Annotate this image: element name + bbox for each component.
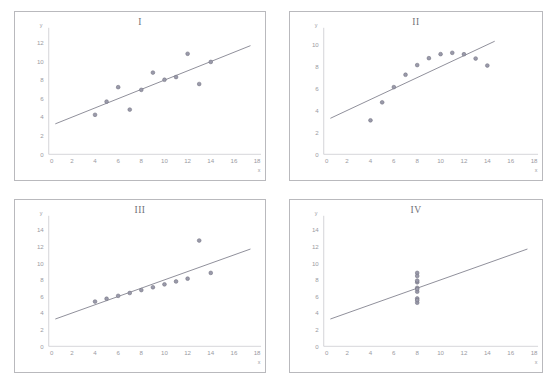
svg-text:10: 10: [37, 58, 44, 65]
svg-text:0: 0: [50, 349, 54, 356]
svg-text:x: x: [535, 359, 538, 365]
svg-text:12: 12: [461, 349, 468, 356]
svg-text:18: 18: [254, 349, 261, 356]
svg-text:x: x: [258, 359, 261, 365]
svg-text:16: 16: [230, 157, 237, 164]
svg-text:10: 10: [161, 349, 168, 356]
svg-text:8: 8: [40, 76, 44, 83]
svg-text:16: 16: [507, 349, 514, 356]
svg-text:10: 10: [437, 157, 444, 164]
svg-text:4: 4: [369, 349, 373, 356]
svg-text:12: 12: [461, 157, 468, 164]
panel-III: III 02468101214246810121416180yx: [0, 193, 278, 387]
svg-text:10: 10: [312, 41, 319, 48]
svg-text:10: 10: [312, 260, 319, 267]
panel-III-plot: 02468101214246810121416180yx: [15, 200, 265, 372]
svg-text:y: y: [315, 210, 318, 216]
svg-text:12: 12: [37, 243, 44, 250]
svg-text:4: 4: [93, 157, 97, 164]
svg-text:x: x: [535, 167, 538, 173]
panel-IV-plot: 02468101214246810121416180yx: [290, 200, 542, 372]
svg-text:2: 2: [70, 157, 74, 164]
svg-text:10: 10: [437, 349, 444, 356]
svg-text:2: 2: [315, 129, 319, 136]
svg-text:0: 0: [325, 349, 329, 356]
svg-text:8: 8: [140, 157, 144, 164]
svg-text:2: 2: [40, 326, 44, 333]
svg-text:4: 4: [315, 309, 319, 316]
svg-text:8: 8: [315, 276, 319, 283]
svg-text:18: 18: [531, 349, 538, 356]
panel-IV-frame: IV 02468101214246810121416180yx: [289, 199, 543, 373]
svg-text:14: 14: [312, 226, 319, 233]
svg-text:y: y: [40, 210, 43, 216]
svg-text:6: 6: [116, 349, 120, 356]
anscombe-quartet-figure: I 024681012246810121416180yx II 02468102…: [0, 0, 556, 387]
panel-I: I 024681012246810121416180yx: [0, 0, 278, 193]
svg-text:4: 4: [369, 157, 373, 164]
svg-text:12: 12: [37, 39, 44, 46]
svg-text:6: 6: [315, 293, 319, 300]
svg-text:x: x: [258, 167, 261, 173]
svg-text:10: 10: [37, 260, 44, 267]
svg-text:4: 4: [40, 309, 44, 316]
svg-text:y: y: [315, 22, 318, 28]
panel-II-frame: II 0246810246810121416180yx: [289, 11, 543, 181]
svg-text:8: 8: [415, 157, 419, 164]
panel-II: II 0246810246810121416180yx: [278, 0, 556, 193]
svg-text:8: 8: [40, 276, 44, 283]
svg-text:2: 2: [40, 132, 44, 139]
svg-text:6: 6: [392, 349, 396, 356]
svg-text:0: 0: [40, 343, 44, 350]
svg-text:2: 2: [345, 157, 349, 164]
svg-text:6: 6: [116, 157, 120, 164]
svg-text:10: 10: [161, 157, 168, 164]
svg-text:12: 12: [184, 157, 191, 164]
svg-text:0: 0: [325, 157, 329, 164]
svg-text:14: 14: [37, 226, 44, 233]
svg-text:6: 6: [40, 95, 44, 102]
svg-text:8: 8: [415, 349, 419, 356]
svg-text:0: 0: [50, 157, 54, 164]
svg-text:16: 16: [507, 157, 514, 164]
svg-text:12: 12: [312, 243, 319, 250]
svg-text:6: 6: [40, 293, 44, 300]
panel-II-plot: 0246810246810121416180yx: [290, 12, 542, 180]
panel-III-frame: III 02468101214246810121416180yx: [14, 199, 266, 373]
svg-text:4: 4: [93, 349, 97, 356]
svg-text:4: 4: [315, 107, 319, 114]
svg-text:2: 2: [315, 326, 319, 333]
svg-text:0: 0: [315, 151, 319, 158]
svg-text:18: 18: [531, 157, 538, 164]
svg-text:y: y: [40, 22, 43, 28]
panel-IV: IV 02468101214246810121416180yx: [278, 193, 556, 387]
svg-text:18: 18: [254, 157, 261, 164]
svg-text:6: 6: [315, 85, 319, 92]
svg-text:2: 2: [345, 349, 349, 356]
svg-text:14: 14: [484, 349, 491, 356]
svg-text:0: 0: [40, 151, 44, 158]
svg-text:12: 12: [184, 349, 191, 356]
svg-text:0: 0: [315, 343, 319, 350]
svg-text:14: 14: [207, 157, 214, 164]
svg-text:6: 6: [392, 157, 396, 164]
svg-text:14: 14: [207, 349, 214, 356]
panel-I-plot: 024681012246810121416180yx: [15, 12, 265, 180]
svg-text:4: 4: [40, 113, 44, 120]
panel-I-frame: I 024681012246810121416180yx: [14, 11, 266, 181]
svg-text:8: 8: [315, 63, 319, 70]
svg-text:16: 16: [230, 349, 237, 356]
svg-text:14: 14: [484, 157, 491, 164]
svg-text:8: 8: [140, 349, 144, 356]
svg-text:2: 2: [70, 349, 74, 356]
